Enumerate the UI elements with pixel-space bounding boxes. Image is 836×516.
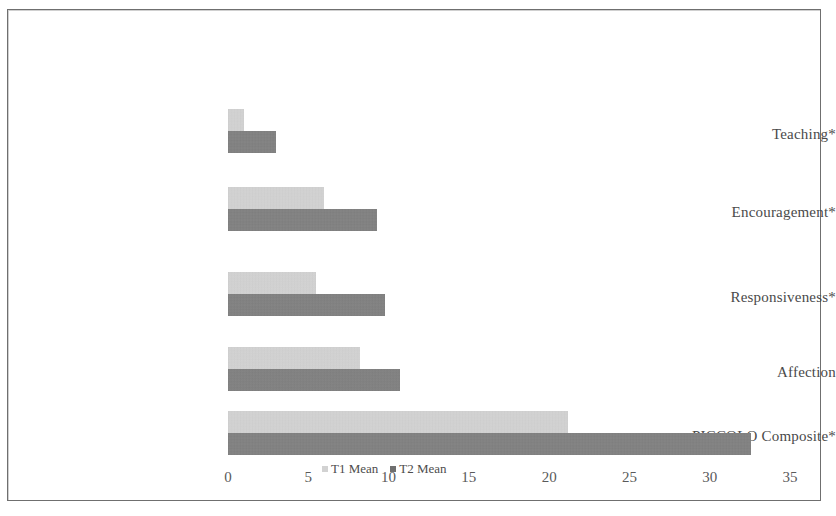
- bar-t2-3: [228, 369, 400, 391]
- category-label-1: Encouragement*: [618, 205, 836, 220]
- bar-t2-1: [228, 209, 377, 231]
- chart-legend: T1 MeanT2 Mean: [322, 462, 447, 475]
- bar-t1-2: [228, 272, 316, 294]
- category-label-3: Affection: [618, 365, 836, 380]
- bar-t1-0: [228, 109, 244, 131]
- x-tick-30: 30: [687, 470, 733, 485]
- category-label-0: Teaching*: [618, 127, 836, 142]
- x-tick-20: 20: [526, 470, 572, 485]
- bar-t2-0: [228, 131, 276, 153]
- bar-t2-4: [228, 433, 751, 455]
- x-tick-0: 0: [205, 470, 251, 485]
- figure-container: Teaching*Encouragement*Responsiveness*Af…: [0, 0, 836, 516]
- x-tick-15: 15: [446, 470, 492, 485]
- legend-label-t2: T2 Mean: [399, 462, 446, 475]
- chart-plot-area: Teaching*Encouragement*Responsiveness*Af…: [0, 0, 836, 516]
- x-tick-35: 35: [767, 470, 813, 485]
- legend-item-t1: T1 Mean: [322, 462, 378, 475]
- legend-swatch-icon-t1: [322, 466, 328, 472]
- bar-t1-1: [228, 187, 324, 209]
- bar-t1-3: [228, 347, 360, 369]
- legend-swatch-icon-t2: [390, 466, 396, 472]
- category-label-2: Responsiveness*: [618, 290, 836, 305]
- bar-t1-4: [228, 411, 568, 433]
- bar-t2-2: [228, 294, 385, 316]
- legend-label-t1: T1 Mean: [331, 462, 378, 475]
- x-tick-25: 25: [606, 470, 652, 485]
- legend-item-t2: T2 Mean: [390, 462, 446, 475]
